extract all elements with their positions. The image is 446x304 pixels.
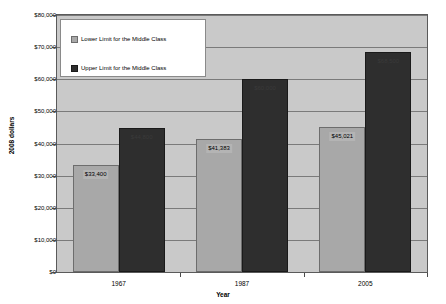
bar: $44,800 (119, 128, 165, 272)
bar: $60,000 (242, 79, 288, 272)
y-axis-tick-label: $40,000 (10, 141, 56, 147)
bar: $45,021 (319, 127, 365, 272)
x-axis-tick-mark (180, 273, 181, 277)
y-axis-tick-label: $20,000 (10, 205, 56, 211)
bar-value-label: $41,383 (206, 144, 232, 153)
y-axis-tick-label: $70,000 (10, 44, 56, 50)
x-axis-title: Year (0, 291, 446, 298)
x-axis-category-label: 2005 (358, 280, 372, 287)
legend-item-label: Lower Limit for the Middle Class (81, 36, 166, 42)
bar-chart: 2008 dollars $0$10,000$20,000$30,000$40,… (0, 0, 446, 304)
x-axis-tick-mark (427, 273, 428, 277)
y-axis-tick-mark (52, 176, 56, 177)
y-axis-tick-label: $60,000 (10, 76, 56, 82)
legend-swatch-icon (71, 36, 78, 43)
y-axis-tick-mark (52, 144, 56, 145)
bar-value-label: $33,400 (83, 170, 109, 179)
x-axis-category-label: 1987 (235, 280, 249, 287)
bar-group: $45,021$68,500 (319, 15, 411, 272)
y-axis-tick-label: $80,000 (10, 12, 56, 18)
y-axis-tick-mark (52, 208, 56, 209)
legend-swatch-icon (71, 65, 78, 72)
legend-item-lower-limit: Lower Limit for the Middle Class (71, 29, 205, 49)
bar: $41,383 (196, 139, 242, 272)
bar: $33,400 (73, 165, 119, 272)
legend-item-upper-limit: Upper Limit for the Middle Class (71, 58, 205, 78)
bar-group: $41,383$60,000 (196, 15, 288, 272)
y-axis-tick-label: $10,000 (10, 237, 56, 243)
y-axis: $0$10,000$20,000$30,000$40,000$50,000$60… (0, 0, 56, 304)
y-axis-tick-mark (52, 47, 56, 48)
x-axis-tick-mark (304, 273, 305, 277)
y-axis-tick-mark (52, 240, 56, 241)
legend-item-label: Upper Limit for the Middle Class (81, 65, 166, 71)
y-axis-tick-mark (52, 272, 56, 273)
y-axis-tick-mark (52, 79, 56, 80)
y-axis-tick-mark (52, 111, 56, 112)
bar: $68,500 (365, 52, 411, 272)
y-axis-tick-label: $50,000 (10, 108, 56, 114)
bar-value-label: $60,000 (252, 84, 278, 93)
bar-value-label: $45,021 (329, 132, 355, 141)
chart-legend: Lower Limit for the Middle Class Upper L… (60, 19, 206, 77)
bar-value-label: $68,500 (375, 57, 401, 66)
y-axis-tick-label: $0 (10, 269, 56, 275)
bar-value-label: $44,800 (129, 133, 155, 142)
x-axis-category-label: 1967 (111, 280, 125, 287)
y-axis-tick-mark (52, 15, 56, 16)
y-axis-tick-label: $30,000 (10, 173, 56, 179)
